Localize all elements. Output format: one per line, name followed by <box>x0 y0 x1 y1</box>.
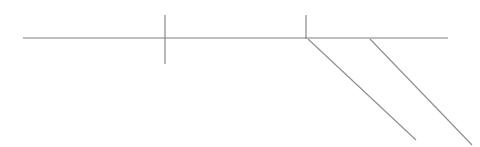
drawing-canvas <box>0 0 480 147</box>
canvas-background <box>0 0 480 147</box>
line-figure <box>0 0 480 147</box>
